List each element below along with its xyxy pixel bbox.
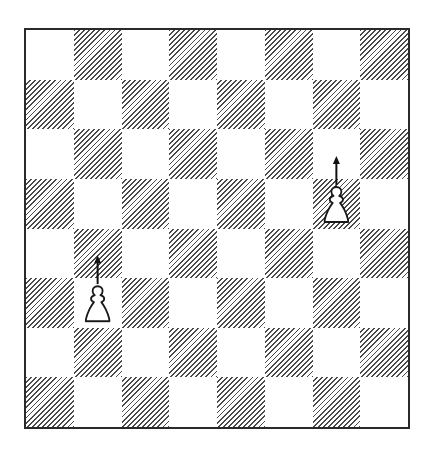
arrow-up-icon xyxy=(94,255,101,263)
arrow-up-icon xyxy=(333,156,340,164)
board-overlay xyxy=(26,30,408,427)
white-pawn-icon-g5 xyxy=(325,187,349,222)
chess-board xyxy=(24,28,410,429)
move-arrow-b3-b4 xyxy=(94,255,101,284)
move-arrow-g5-g6 xyxy=(333,156,340,185)
white-pawn-icon-b3 xyxy=(86,286,110,321)
